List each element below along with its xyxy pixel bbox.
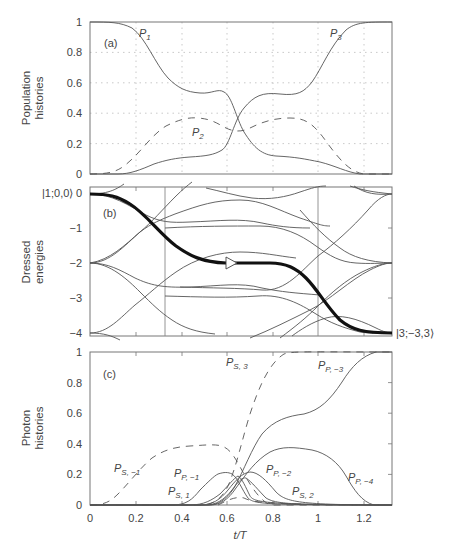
xtick: 0.8	[265, 512, 280, 524]
label-pp-m2: PP, −2	[266, 463, 292, 478]
panel-c-ylabel: Photon histories	[20, 406, 45, 449]
label-ps-2: PS, 2	[292, 485, 314, 500]
panel-a-grid	[90, 22, 392, 174]
curve-pp-m3	[90, 352, 392, 505]
panel-b-ylabel: Dressed energies	[20, 240, 45, 284]
panel-c: 1 0.8 0.6 0.4 0.2 0 Photon histories (c)…	[20, 346, 392, 541]
panel-c-ytick: 0.4	[67, 438, 82, 450]
xtick: 0.6	[219, 512, 234, 524]
xtick: 0	[87, 512, 93, 524]
panel-b: 0 −1 −2 −3 −4 |1;0,0⟩ |3;−3,3⟩ Dressed e…	[20, 182, 434, 340]
energy-level-curves	[90, 182, 392, 340]
adiabatic-path	[90, 194, 392, 333]
svg-text:Population: Population	[20, 71, 32, 125]
label-p3: P3	[330, 27, 342, 42]
panel-c-ytick: 1	[76, 346, 82, 358]
panel-c-ytick: 0	[76, 499, 82, 511]
direction-arrow-icon	[226, 257, 237, 269]
panel-b-ytick: −4	[69, 327, 82, 339]
label-p1: P1	[139, 27, 151, 42]
panel-b-ytick: −2	[69, 257, 82, 269]
panel-b-tag: (b)	[103, 207, 116, 219]
figure: 1 0.8 0.6 0.4 0.2 0 Population histories…	[0, 0, 449, 553]
svg-text:histories: histories	[33, 406, 45, 449]
panel-a-ytick: 0	[76, 168, 82, 180]
panel-a-ytick: 1	[76, 16, 82, 28]
x-axis-label: t/T	[234, 529, 248, 541]
label-ps-m1: PS, −1	[114, 462, 140, 477]
panel-c-tag: (c)	[103, 368, 116, 380]
label-p2: P2	[192, 126, 204, 141]
xtick: 0.4	[174, 512, 189, 524]
xtick: 1	[315, 512, 321, 524]
panel-a-ytick: 0.6	[67, 77, 82, 89]
panel-a-frame	[90, 22, 392, 174]
xtick: 1.2	[356, 512, 371, 524]
label-pp-m1: PP, −1	[174, 467, 199, 482]
panel-a-ytick: 0.2	[67, 138, 82, 150]
panel-a-ylabel: Population histories	[20, 71, 45, 125]
svg-text:energies: energies	[33, 240, 45, 284]
panel-c-ytick: 0.6	[67, 407, 82, 419]
curve-p3	[90, 22, 392, 174]
panel-c-ytick: 0.8	[67, 377, 82, 389]
panel-b-ytick: 0	[76, 187, 82, 199]
label-ps-3: PS, 3	[226, 356, 248, 371]
xtick: 0.2	[128, 512, 143, 524]
panel-c-ytick: 0.2	[67, 468, 82, 480]
panel-a: 1 0.8 0.6 0.4 0.2 0 Population histories…	[20, 16, 392, 180]
svg-text:Dressed: Dressed	[20, 241, 32, 284]
start-state-label: |1;0,0⟩	[42, 187, 73, 199]
panel-b-ytick: −1	[69, 222, 82, 234]
panel-a-tag: (a)	[104, 37, 117, 49]
end-state-label: |3;−3,3⟩	[396, 327, 434, 339]
panel-a-ytick: 0.8	[67, 46, 82, 58]
svg-text:histories: histories	[33, 76, 45, 119]
curve-p1	[90, 22, 392, 174]
label-pp-m3: PP, −3	[318, 359, 344, 374]
label-pp-m4: PP, −4	[348, 471, 374, 486]
label-ps-1: PS, 1	[168, 485, 190, 500]
panel-a-ytick: 0.4	[67, 107, 82, 119]
panel-b-ytick: −3	[69, 292, 82, 304]
curve-ps-2	[90, 478, 392, 505]
svg-text:Photon: Photon	[20, 410, 32, 446]
